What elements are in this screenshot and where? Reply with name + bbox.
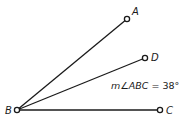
measure-prefix: m bbox=[111, 80, 120, 91]
ray-ba bbox=[17, 19, 127, 110]
point-d bbox=[142, 55, 147, 60]
label-c: C bbox=[166, 105, 173, 116]
angle-diagram: B A D C m∠ABC = 38° bbox=[0, 0, 187, 127]
angle-measure-label: m∠ABC = 38° bbox=[111, 80, 179, 91]
point-c bbox=[157, 107, 162, 112]
angle-value: 38° bbox=[162, 80, 179, 91]
point-a bbox=[124, 16, 129, 21]
label-d: D bbox=[151, 52, 159, 63]
label-b: B bbox=[5, 105, 12, 116]
angle-name: ABC bbox=[128, 80, 149, 91]
equals-sign: = bbox=[148, 80, 162, 91]
point-b bbox=[14, 107, 19, 112]
label-a: A bbox=[131, 6, 139, 17]
angle-symbol-icon: ∠ bbox=[120, 80, 129, 91]
